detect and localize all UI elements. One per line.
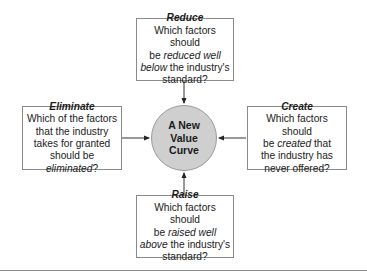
create-box: Create Which factors should be created t… <box>247 106 347 170</box>
reduce-line: be reduced well <box>149 50 220 62</box>
reduce-box: Reduce Which factors should be reduced w… <box>136 18 234 81</box>
create-title: Create <box>281 101 313 113</box>
create-line: Which factors should <box>250 113 344 138</box>
raise-line: Which factors should <box>139 202 231 227</box>
create-line: the industry has <box>261 150 333 162</box>
raise-line: be raised well <box>154 227 216 239</box>
reduce-line: below the industry's <box>140 62 229 74</box>
eliminate-line: that the industry <box>36 126 109 138</box>
eliminate-line: should be eliminated? <box>25 150 119 175</box>
eliminate-line: takes for granted <box>34 138 110 150</box>
bottom-divider <box>0 270 367 271</box>
raise-title: Raise <box>171 189 198 201</box>
reduce-line: Which factors should <box>139 25 231 50</box>
eliminate-box: Eliminate Which of the factors that the … <box>22 106 122 170</box>
raise-line: standard? <box>162 251 207 263</box>
raise-box: Raise Which factors should be raised wel… <box>136 195 234 258</box>
eliminate-title: Eliminate <box>49 101 94 113</box>
create-line: never offered? <box>264 163 330 175</box>
reduce-line: standard? <box>162 74 207 86</box>
center-line: A New <box>168 119 200 132</box>
create-line: be created that <box>263 138 331 150</box>
eliminate-line: Which of the factors <box>27 113 117 125</box>
reduce-title: Reduce <box>167 12 204 24</box>
new-value-curve-circle: A New Value Curve <box>151 105 217 171</box>
center-line: Value <box>170 132 197 145</box>
center-line: Curve <box>169 144 199 157</box>
raise-line: above the industry's <box>140 239 230 251</box>
